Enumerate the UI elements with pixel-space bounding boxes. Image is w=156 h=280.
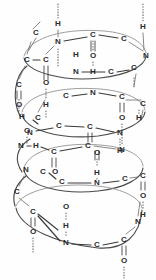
atom-c: C bbox=[40, 167, 46, 176]
atom-n: N bbox=[73, 67, 79, 76]
atom-h: H bbox=[90, 67, 96, 76]
atom-c: C bbox=[59, 177, 65, 186]
atom-c: C bbox=[43, 55, 49, 64]
atom-o: O bbox=[90, 51, 96, 60]
atom-c: C bbox=[56, 121, 62, 130]
atom-c: C bbox=[16, 80, 22, 89]
atom-c: C bbox=[94, 240, 100, 249]
atom-c: C bbox=[14, 187, 20, 196]
atom-c: C bbox=[30, 207, 36, 216]
atom-n: N bbox=[94, 178, 100, 187]
atom-n: N bbox=[55, 37, 61, 46]
atom-c: C bbox=[90, 30, 96, 39]
atom-c: C bbox=[24, 55, 30, 64]
helix-canvas: C N H C C H N O H C C N H C C bbox=[0, 0, 156, 280]
atom-h: H bbox=[136, 113, 142, 122]
atom-c: C bbox=[35, 113, 41, 122]
atom-o: O bbox=[30, 227, 36, 236]
atom-n: N bbox=[23, 165, 29, 174]
atom-h: H bbox=[140, 22, 146, 31]
atom-h: H bbox=[55, 19, 61, 28]
atom-c: C bbox=[121, 34, 127, 43]
atom-c: C bbox=[119, 92, 125, 101]
atom-o: O bbox=[52, 167, 58, 176]
atom-n: N bbox=[27, 128, 33, 137]
atom-h: H bbox=[63, 221, 69, 230]
atom-c: C bbox=[63, 91, 69, 100]
backbone-bonds-turn-2 bbox=[17, 66, 143, 142]
atom-n: N bbox=[18, 141, 24, 150]
atom-h: H bbox=[33, 141, 39, 150]
atom-n: N bbox=[135, 217, 141, 226]
atom-n: N bbox=[63, 238, 69, 247]
atom-h: H bbox=[19, 112, 25, 121]
atom-c: C bbox=[85, 141, 91, 150]
atom-o: O bbox=[140, 191, 146, 200]
atom-n: N bbox=[117, 128, 123, 137]
atom-o: O bbox=[94, 148, 100, 157]
atom-h: H bbox=[73, 50, 79, 59]
atom-c: C bbox=[140, 99, 146, 108]
hydrogen-bonds-turn-1 bbox=[58, 4, 143, 88]
atom-c: C bbox=[87, 122, 93, 131]
atom-c: C bbox=[122, 174, 128, 183]
hydrogen-bonds-turn-3 bbox=[19, 99, 143, 278]
atom-c: C bbox=[51, 147, 57, 156]
atom-o: O bbox=[121, 256, 127, 265]
atom-h: H bbox=[94, 168, 100, 177]
alpha-helix-figure: C N H C C H N O H C C N H C C bbox=[0, 0, 156, 280]
atom-o: O bbox=[119, 113, 125, 122]
atom-c: C bbox=[108, 67, 114, 76]
atom-c: C bbox=[33, 28, 39, 37]
atom-h: H bbox=[43, 100, 49, 109]
atom-c: C bbox=[140, 171, 146, 180]
atom-h: H bbox=[140, 210, 146, 219]
atom-c: C bbox=[131, 63, 137, 72]
atom-n: N bbox=[90, 88, 96, 97]
atom-o: O bbox=[43, 78, 49, 87]
atom-labels-turn-1: C N H C C H N O H C C N H C C bbox=[24, 19, 149, 76]
atom-n: N bbox=[119, 145, 125, 154]
atom-c: C bbox=[121, 235, 127, 244]
atom-o: O bbox=[63, 202, 69, 211]
atom-n: N bbox=[143, 51, 149, 60]
